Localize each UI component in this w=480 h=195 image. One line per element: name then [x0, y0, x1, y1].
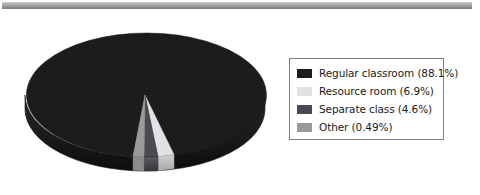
legend-swatch-other: [297, 123, 312, 132]
top-decorative-bar: [2, 2, 472, 9]
chart-legend: Regular classroom (88.1%) Resource room …: [289, 58, 444, 140]
legend-swatch-separate-class: [297, 105, 312, 114]
chart-canvas: Regular classroom (88.1%) Resource room …: [0, 0, 480, 195]
legend-label-other: Other (0.49%): [319, 122, 392, 133]
legend-swatch-resource-room: [297, 87, 312, 96]
legend-swatch-regular-classroom: [297, 69, 312, 78]
legend-label-separate-class: Separate class (4.6%): [319, 104, 432, 115]
legend-label-regular-classroom: Regular classroom (88.1%): [319, 68, 458, 79]
legend-label-resource-room: Resource room (6.9%): [319, 86, 434, 97]
pie-chart-svg: [18, 18, 280, 188]
legend-item-separate-class[interactable]: Separate class (4.6%): [297, 100, 437, 118]
legend-item-other[interactable]: Other (0.49%): [297, 118, 437, 136]
pie-chart: [18, 18, 280, 188]
side-wall-resource-room: [158, 155, 174, 171]
side-wall-separate-class: [144, 157, 158, 171]
legend-item-regular-classroom[interactable]: Regular classroom (88.1%): [297, 64, 437, 82]
legend-item-resource-room[interactable]: Resource room (6.9%): [297, 82, 437, 100]
side-wall-other: [133, 157, 144, 171]
